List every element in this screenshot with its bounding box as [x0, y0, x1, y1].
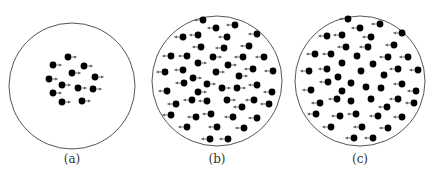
- particle: [334, 32, 346, 39]
- particle-dot: [224, 34, 231, 41]
- particle: [175, 34, 187, 41]
- particle-dot: [312, 51, 319, 58]
- particle-dot: [59, 82, 66, 89]
- particle-dot: [363, 84, 370, 91]
- particle-dot: [357, 25, 364, 32]
- particle: [81, 63, 93, 70]
- particle-dot: [200, 17, 207, 24]
- particle-dot: [210, 54, 217, 61]
- particle: [335, 74, 342, 81]
- particle-dot: [399, 81, 406, 88]
- particle-dot: [162, 69, 169, 76]
- particle: [219, 34, 231, 41]
- particle-dot: [195, 32, 202, 39]
- particle-dot: [343, 44, 350, 51]
- particle: [261, 101, 273, 108]
- particle-dot: [213, 25, 220, 32]
- particle: [59, 99, 71, 106]
- particle: [360, 44, 372, 51]
- particle: [354, 53, 361, 60]
- particle: [394, 81, 406, 88]
- particle-dot: [335, 74, 342, 81]
- particle-dot: [324, 66, 331, 73]
- particle: [227, 22, 239, 29]
- particle: [202, 136, 214, 143]
- particle: [319, 66, 331, 73]
- particle: [208, 25, 220, 32]
- particle-dot: [213, 69, 220, 76]
- particle: [234, 104, 246, 111]
- particle-dot: [46, 76, 53, 83]
- particle: [246, 97, 258, 104]
- particle: [320, 79, 332, 86]
- particle-dot: [405, 54, 412, 61]
- particle: [358, 68, 365, 75]
- particle-dot: [399, 30, 406, 37]
- particle: [339, 88, 346, 95]
- particle-dot: [368, 96, 375, 103]
- particle-dot: [313, 111, 320, 118]
- particle: [348, 98, 355, 105]
- particle: [378, 85, 385, 92]
- particle: [195, 89, 207, 96]
- particle: [332, 113, 344, 120]
- particle-dot: [368, 34, 375, 41]
- particle: [346, 135, 358, 142]
- particle-dot: [193, 114, 200, 121]
- particle: [381, 72, 388, 79]
- particle-dot: [254, 31, 261, 38]
- particle: [323, 51, 335, 58]
- particle-dot: [375, 113, 382, 120]
- particle-dot: [358, 68, 365, 75]
- particle-dot: [351, 135, 358, 142]
- particle-dot: [345, 16, 352, 23]
- particle: [220, 136, 232, 143]
- particle-dot: [359, 124, 366, 131]
- particle: [79, 98, 91, 105]
- panel-c-label: (c): [352, 152, 368, 166]
- particle-dot: [181, 80, 188, 87]
- particle: [188, 114, 200, 121]
- boundary-circle: [9, 23, 135, 149]
- particle: [159, 88, 171, 95]
- particle: [400, 54, 412, 61]
- particle-dot: [184, 124, 191, 131]
- particle-dot: [381, 72, 388, 79]
- particle: [301, 68, 313, 75]
- particle: [50, 90, 62, 97]
- particle: [75, 85, 87, 92]
- particle: [249, 82, 261, 89]
- particle: [195, 60, 207, 67]
- particle: [256, 54, 268, 61]
- particle: [168, 101, 180, 108]
- particle: [236, 125, 248, 132]
- particle-dot: [65, 54, 72, 61]
- particle-dot: [79, 98, 86, 105]
- particle: [370, 113, 382, 120]
- particle-dot: [339, 60, 346, 67]
- particle-dot: [395, 66, 402, 73]
- particle-dot: [204, 98, 211, 105]
- particle-dot: [90, 86, 97, 93]
- particle: [204, 81, 216, 88]
- particle: [365, 135, 377, 142]
- particle-dot: [234, 85, 241, 92]
- particle: [163, 112, 175, 119]
- particle-dot: [195, 89, 202, 96]
- particle-dot: [246, 43, 253, 50]
- particle-dot: [370, 135, 377, 142]
- particle-dot: [239, 104, 246, 111]
- particle-dot: [173, 101, 180, 108]
- particle: [339, 60, 346, 67]
- particle: [225, 114, 237, 121]
- particle-dot: [384, 104, 391, 111]
- particle: [354, 124, 366, 131]
- panel-b-label: (b): [208, 152, 225, 166]
- panel-c: [295, 16, 425, 146]
- particle: [249, 115, 261, 122]
- particle-dot: [225, 62, 232, 69]
- particle-dot: [308, 87, 315, 94]
- particle: [370, 61, 377, 68]
- particle: [368, 96, 375, 103]
- particle: [163, 53, 175, 60]
